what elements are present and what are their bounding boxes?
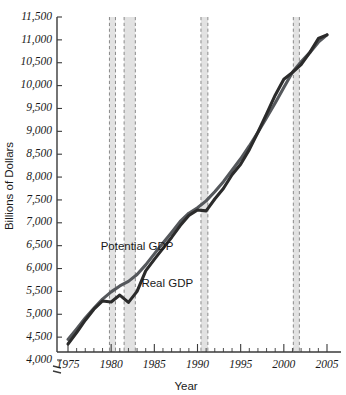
- x-axis-tick-label: 1995: [229, 358, 252, 370]
- y-axis-tick-label: 7,000: [26, 215, 52, 228]
- y-axis: 4,0004,5005,0005,5006,0006,5007,0007,500…: [20, 10, 62, 373]
- x-axis-major-ticks: [68, 344, 327, 352]
- x-axis-tick-label: 1975: [57, 358, 80, 370]
- y-axis-tick-label: 4,000: [26, 353, 52, 366]
- recession-band: [201, 17, 208, 352]
- x-axis-tick-label: 2005: [316, 358, 339, 370]
- chart-canvas: 4,0004,5005,0005,5006,0006,5007,0007,500…: [0, 0, 346, 395]
- y-axis-tick-label: 5,000: [26, 307, 52, 320]
- y-axis-tick-label: 10,000: [20, 78, 52, 91]
- recession-bands-group: [109, 17, 299, 352]
- y-axis-tick-label: 7,500: [26, 193, 52, 206]
- y-axis-tick-label: 5,500: [26, 284, 52, 297]
- y-axis-tick-label: 6,500: [26, 238, 52, 251]
- y-axis-tick-label: 11,500: [21, 10, 52, 23]
- x-axis-tick-label: 1985: [143, 358, 166, 370]
- x-axis-tick-label: 1980: [100, 358, 123, 370]
- y-axis-title: Billions of Dollars: [3, 142, 15, 230]
- y-axis-tick-labels: 4,0004,5005,0005,5006,0006,5007,0007,500…: [20, 10, 52, 366]
- y-axis-tick-label: 11,000: [21, 33, 52, 46]
- series-line-potential-gdp: [68, 35, 327, 340]
- y-axis-tick-label: 8,000: [26, 170, 52, 183]
- y-axis-tick-label: 10,500: [20, 55, 52, 68]
- data-series-group: [68, 35, 327, 344]
- y-axis-tick-label: 8,500: [26, 147, 52, 160]
- y-axis-tick-label: 6,000: [26, 261, 52, 274]
- x-axis-tick-labels: 1975198019851990199520002005: [57, 358, 339, 370]
- x-axis-tick-label: 2000: [272, 358, 295, 370]
- x-axis-tick-label: 1990: [186, 358, 209, 370]
- y-axis-tick-label: 9,000: [26, 124, 52, 137]
- y-axis-tick-label: 4,500: [26, 330, 52, 343]
- series-label-real-gdp: Real GDP: [141, 277, 193, 289]
- recession-band-fill: [201, 17, 208, 352]
- gdp-chart: 4,0004,5005,0005,5006,0006,5007,0007,500…: [0, 0, 346, 395]
- series-label-potential-gdp: Potential GDP: [101, 240, 174, 252]
- x-axis-title: Year: [174, 380, 197, 392]
- y-axis-ticks: [57, 17, 62, 360]
- y-axis-tick-label: 9,500: [26, 101, 52, 114]
